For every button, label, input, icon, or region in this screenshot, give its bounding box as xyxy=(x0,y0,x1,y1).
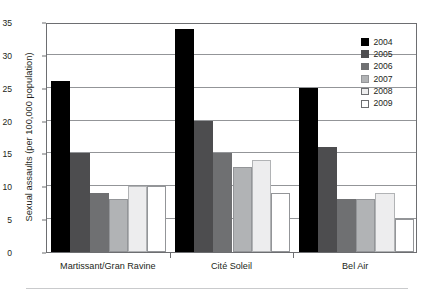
x-group-tick xyxy=(293,253,294,258)
legend-swatch-icon xyxy=(361,50,369,58)
legend-label: 2007 xyxy=(374,75,393,84)
legend: 200420052006200720082009 xyxy=(361,36,421,110)
legend-item[interactable]: 2006 xyxy=(361,61,421,73)
bar xyxy=(213,153,232,252)
x-group-tick xyxy=(170,253,171,258)
y-tick-label: 30 xyxy=(0,51,12,61)
legend-swatch-icon xyxy=(361,38,369,46)
bar xyxy=(337,199,356,252)
x-tick-label: Cité Soleil xyxy=(211,261,252,271)
y-tick-label: 0 xyxy=(0,248,12,258)
bar xyxy=(90,193,109,252)
legend-label: 2005 xyxy=(374,50,393,59)
bar xyxy=(194,121,213,252)
bar xyxy=(252,160,271,252)
y-axis-title: Sexual assaults (per 100,000 population) xyxy=(24,12,34,262)
bar xyxy=(299,88,318,252)
bar xyxy=(375,193,394,252)
legend-item[interactable]: 2007 xyxy=(361,73,421,85)
x-tick-label: Martissant/Gran Ravine xyxy=(60,261,156,271)
legend-label: 2004 xyxy=(374,38,393,47)
legend-label: 2006 xyxy=(374,62,393,71)
bar xyxy=(318,147,337,252)
legend-label: 2009 xyxy=(374,99,393,108)
y-tick-label: 20 xyxy=(0,117,12,127)
x-tick-label: Bel Air xyxy=(342,261,368,271)
y-tick-label: 5 xyxy=(0,215,12,225)
bar xyxy=(395,219,414,252)
y-tick-label: 25 xyxy=(0,84,12,94)
bottom-divider xyxy=(26,288,408,289)
y-tick-label: 10 xyxy=(0,182,12,192)
bar xyxy=(51,81,70,252)
chart-figure: Sexual assaults (per 100,000 population)… xyxy=(0,0,433,297)
legend-item[interactable]: 2005 xyxy=(361,48,421,60)
bar xyxy=(233,167,252,252)
legend-item[interactable]: 2008 xyxy=(361,86,421,98)
bar xyxy=(147,186,166,252)
bar xyxy=(271,193,290,252)
bar xyxy=(356,199,375,252)
bar xyxy=(109,199,128,252)
legend-swatch-icon xyxy=(361,63,369,71)
legend-label: 2008 xyxy=(374,87,393,96)
bar xyxy=(175,29,194,252)
legend-swatch-icon xyxy=(361,88,369,96)
bar xyxy=(128,186,147,252)
bar xyxy=(70,153,89,252)
y-tick-label: 35 xyxy=(0,18,12,28)
legend-item[interactable]: 2004 xyxy=(361,36,421,48)
legend-swatch-icon xyxy=(361,100,369,108)
legend-item[interactable]: 2009 xyxy=(361,98,421,110)
legend-swatch-icon xyxy=(361,75,369,83)
y-tick-label: 15 xyxy=(0,149,12,159)
gridline xyxy=(47,120,416,121)
clipped-top-caption xyxy=(180,0,433,9)
